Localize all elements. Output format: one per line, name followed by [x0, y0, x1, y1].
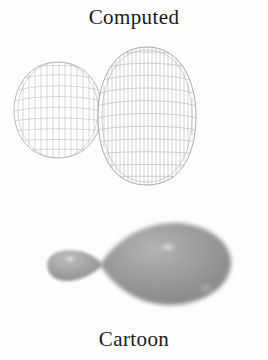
computed-small-lobe: [14, 62, 102, 158]
cartoon-large-lobe: [100, 223, 231, 305]
page-title: Computed: [0, 4, 268, 30]
computed-orbital-panel: [0, 36, 268, 196]
cartoon-small-lobe-highlight: [65, 257, 75, 261]
orbital-figure: Computed: [0, 0, 268, 360]
cartoon-small-lobe: [47, 250, 103, 281]
cartoon-large-lobe-body: [100, 223, 231, 305]
cartoon-small-lobe-body: [47, 250, 103, 281]
cartoon-orbital-graphic: [0, 206, 268, 322]
computed-orbital-graphic: [0, 36, 268, 196]
cartoon-large-lobe-secondary-highlight: [200, 285, 212, 291]
cartoon-orbital-panel: [0, 206, 268, 322]
computed-large-lobe: [98, 47, 196, 186]
figure-caption: Cartoon: [0, 326, 268, 352]
cartoon-large-lobe-highlight: [160, 244, 176, 250]
